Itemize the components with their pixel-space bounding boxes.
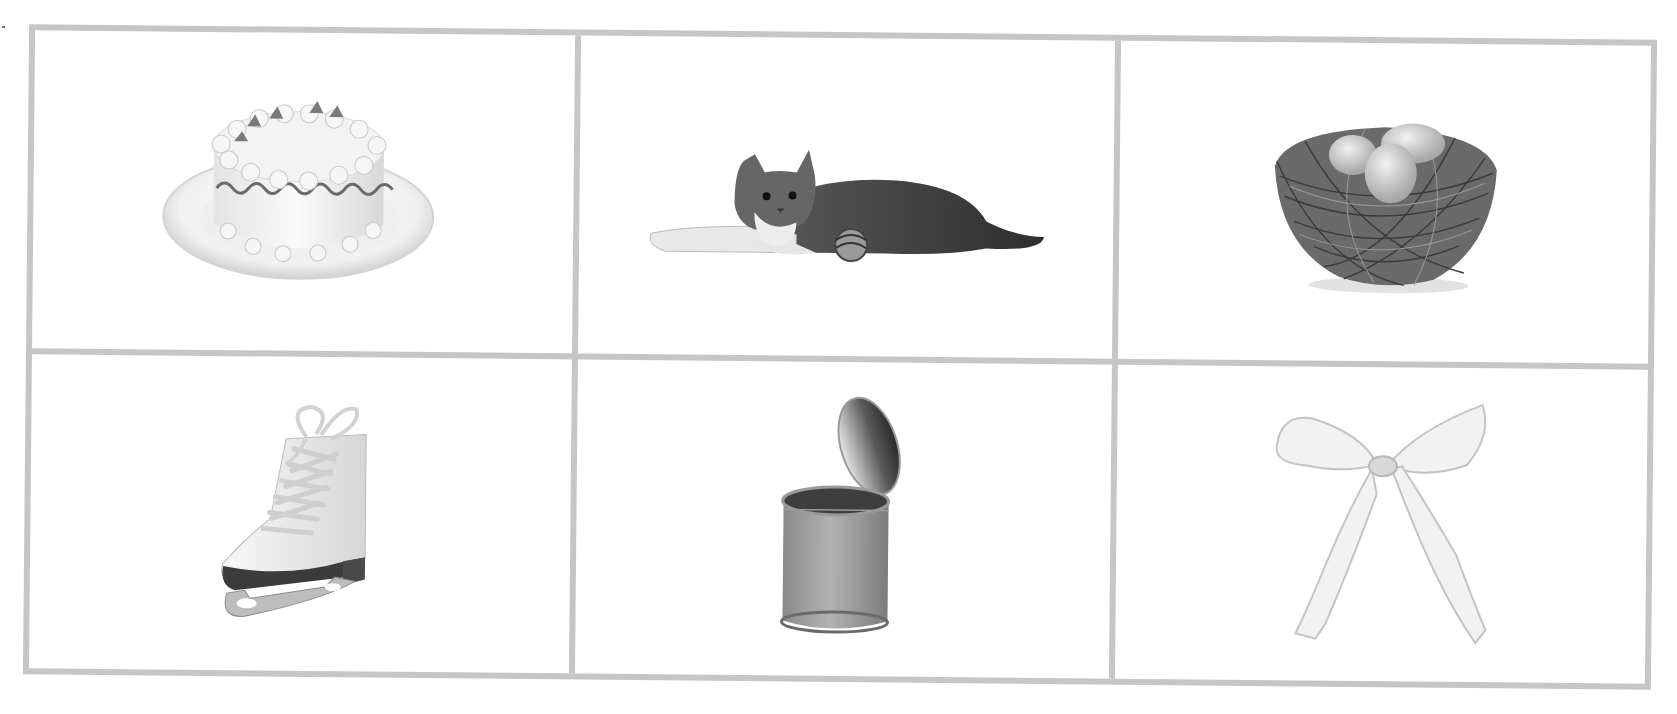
cat-icon (646, 133, 1047, 267)
cell-skate[interactable]: skate (29, 354, 572, 673)
skate-icon (214, 398, 386, 630)
scan-mark (2, 26, 5, 28)
bow-icon (1265, 393, 1497, 655)
can-icon (772, 395, 914, 646)
cell-cake[interactable]: cake (32, 30, 575, 353)
cell-can[interactable]: can (575, 359, 1112, 678)
picture-grid: cake (23, 24, 1657, 690)
nest-icon (1264, 106, 1506, 298)
cell-cat[interactable]: cat (578, 35, 1115, 358)
cell-nest[interactable]: nest (1118, 41, 1651, 364)
cell-bow[interactable]: bow (1115, 365, 1648, 684)
cake-icon (158, 95, 450, 288)
